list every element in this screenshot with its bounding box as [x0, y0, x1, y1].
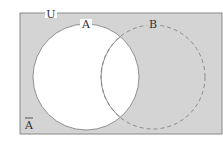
- set-a-fill: [33, 24, 139, 130]
- set-b-label: B: [149, 18, 157, 31]
- universe-label: U: [46, 8, 55, 21]
- set-a-label: A: [81, 18, 91, 31]
- complement-label: A: [24, 119, 34, 132]
- venn-diagram: U A B A: [0, 0, 223, 144]
